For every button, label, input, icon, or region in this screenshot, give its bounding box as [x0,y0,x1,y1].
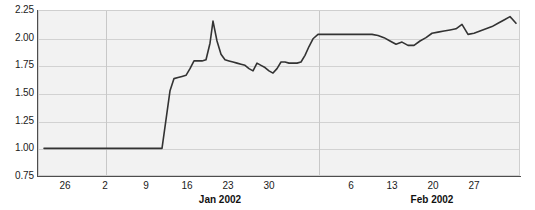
gridline-horizontal [39,122,519,123]
gridline-vertical [319,11,320,175]
y-tick-label: 2.25 [2,5,34,15]
gridline-horizontal [39,39,519,40]
y-tick-label: 1.50 [2,88,34,98]
y-tick-label: 0.75 [2,171,34,181]
y-tick-label: 2.00 [2,33,34,43]
line-chart: 0.751.001.251.501.752.002.25 26291623306… [0,0,535,210]
y-tick-label: 1.00 [2,143,34,153]
gridline-vertical [106,11,107,175]
x-tick-label: 20 [413,180,453,191]
x-tick-label: 26 [45,180,85,191]
y-axis-line [37,10,38,177]
x-axis-line [38,176,521,177]
x-tick-label: 2 [85,180,125,191]
x-tick-label: 9 [126,180,166,191]
x-tick-label: 27 [454,180,494,191]
month-label: Jan 2002 [160,194,280,205]
gridline-horizontal [39,94,519,95]
plot-area [38,10,520,176]
x-tick-label: 23 [208,180,248,191]
y-tick-label: 1.75 [2,60,34,70]
y-tick-label: 1.25 [2,116,34,126]
gridline-horizontal [39,149,519,150]
gridline-horizontal [39,66,519,67]
y-axis-tick-labels: 0.751.001.251.501.752.002.25 [0,0,34,210]
x-tick-label: 6 [331,180,371,191]
x-tick-label: 13 [372,180,412,191]
x-tick-label: 30 [249,180,289,191]
x-tick-label: 16 [167,180,207,191]
month-label: Feb 2002 [372,194,492,205]
